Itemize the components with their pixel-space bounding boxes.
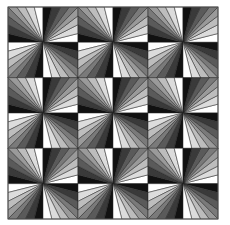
quilt-block	[113, 184, 148, 219]
quilt-block	[148, 7, 183, 42]
quilt-block	[8, 78, 43, 113]
quilt-block	[113, 42, 148, 77]
quilt-block	[113, 113, 148, 148]
quilt-block	[183, 42, 218, 77]
quilt-block	[78, 113, 113, 148]
quilt-block	[113, 78, 148, 113]
quilt-block	[43, 113, 78, 148]
quilt-block	[148, 184, 183, 219]
quilt-block	[113, 148, 148, 183]
quilt-block	[183, 184, 218, 219]
quilt-block	[148, 113, 183, 148]
quilt-block	[43, 148, 78, 183]
quilt-block	[148, 148, 183, 183]
quilt-block	[8, 184, 43, 219]
quilt-block	[8, 113, 43, 148]
quilt-block	[183, 113, 218, 148]
quilt-block	[78, 7, 113, 42]
quilt-block	[148, 42, 183, 77]
quilt-block	[43, 7, 78, 42]
quilt-block	[8, 42, 43, 77]
quilt-block	[183, 7, 218, 42]
quilt-block	[78, 42, 113, 77]
quilt-block	[183, 78, 218, 113]
quilt-block	[78, 78, 113, 113]
quilt-block	[8, 7, 43, 42]
quilt-block	[78, 184, 113, 219]
quilt-block	[78, 148, 113, 183]
quilt-block	[43, 184, 78, 219]
quilt-block	[148, 78, 183, 113]
quilt-block	[113, 7, 148, 42]
quilt-block	[43, 78, 78, 113]
quilt-pattern	[0, 0, 230, 225]
quilt-block	[43, 42, 78, 77]
quilt-block	[183, 148, 218, 183]
quilt-block	[8, 148, 43, 183]
